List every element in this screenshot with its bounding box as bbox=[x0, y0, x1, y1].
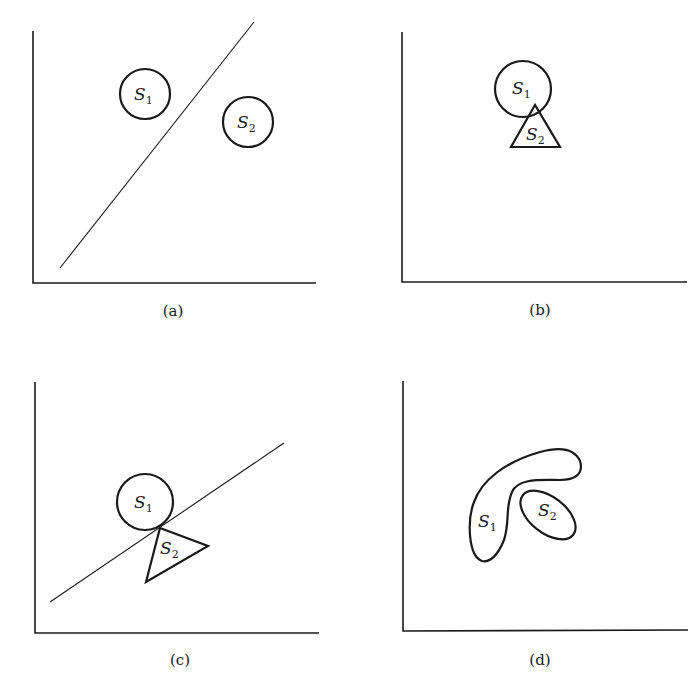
set-s2-label-c: S2 bbox=[160, 538, 179, 561]
caption-c: (c) bbox=[170, 651, 190, 669]
figure-canvas: S1 S2 (a) S1 S2 (b) S1 S2 (c) S1 S2 (d) bbox=[0, 0, 698, 694]
set-s2-label-b: S2 bbox=[526, 124, 545, 147]
panel-c: S1 S2 (c) bbox=[35, 382, 319, 669]
set-s1-label-b: S1 bbox=[512, 78, 531, 101]
panel-d: S1 S2 (d) bbox=[403, 381, 688, 669]
set-s2-label-a: S2 bbox=[237, 112, 256, 135]
separating-line-a bbox=[60, 22, 254, 268]
separating-line-c bbox=[50, 443, 284, 602]
set-s1-label-a: S1 bbox=[134, 84, 153, 107]
panel-a: S1 S2 (a) bbox=[33, 22, 316, 320]
caption-b: (b) bbox=[529, 301, 550, 319]
caption-d: (d) bbox=[529, 651, 550, 669]
caption-a: (a) bbox=[163, 302, 184, 320]
set-s1-label-d: S1 bbox=[478, 511, 497, 534]
axes-c bbox=[35, 382, 319, 633]
set-s1-label-c: S1 bbox=[134, 492, 153, 515]
set-s2-label-d: S2 bbox=[538, 500, 557, 523]
axes-a bbox=[33, 31, 316, 283]
panel-b: S1 S2 (b) bbox=[402, 32, 687, 319]
